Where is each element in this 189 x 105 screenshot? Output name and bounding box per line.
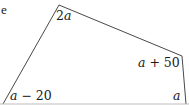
angle-label-bottom-left: a − 20 <box>10 90 52 103</box>
quadrilateral-diagram: e 2a a + 50 a a − 20 <box>0 0 189 105</box>
angle-label-bottom-right: a <box>173 90 180 103</box>
angle-label-right-upper: a + 50 <box>138 57 180 70</box>
angle-label-top: 2a <box>56 10 71 23</box>
